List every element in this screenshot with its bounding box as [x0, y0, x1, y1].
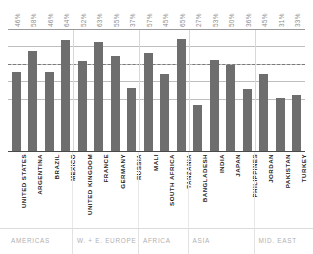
category-label: BANGLADESH: [201, 154, 208, 202]
value-label: 33%: [294, 18, 301, 27]
bar[interactable]: [111, 56, 120, 152]
category-label: GERMANY: [119, 154, 126, 189]
value-label: 46%: [14, 18, 21, 27]
group-label: ASIA: [193, 237, 210, 244]
value-label: 63%: [96, 18, 103, 27]
bar[interactable]: [276, 98, 285, 152]
bar[interactable]: [78, 61, 87, 152]
value-label: 52%: [80, 18, 87, 27]
bar[interactable]: [193, 105, 202, 152]
bar[interactable]: [226, 65, 235, 152]
bar[interactable]: [259, 74, 268, 152]
value-label: 45%: [162, 18, 169, 27]
group-divider: [188, 229, 189, 254]
category-label: JORDAN: [267, 154, 274, 183]
category-label: BRAZIL: [53, 154, 60, 179]
group-tick: [188, 152, 189, 228]
group-label: AMERICAS: [11, 237, 50, 244]
value-label: 46%: [47, 18, 54, 27]
bar[interactable]: [177, 39, 186, 152]
category-label: SOUTH AFRICA: [168, 154, 175, 206]
value-label: 36%: [245, 18, 252, 27]
axis-baseline: [8, 151, 305, 153]
group-divider: [72, 229, 73, 254]
group-tick: [72, 152, 73, 228]
category-label: UNITED STATES: [20, 154, 27, 208]
group-divider: [138, 229, 139, 254]
group-label: W. + E. EUROPE: [77, 237, 136, 244]
group-label: MID. EAST: [259, 237, 297, 244]
category-label: FRANCE: [102, 154, 109, 182]
category-label: PAKISTAN: [284, 154, 291, 188]
group-label: AFRICA: [143, 237, 171, 244]
group-tick: [138, 152, 139, 228]
bar[interactable]: [210, 60, 219, 152]
category-label: JAPAN: [234, 154, 241, 177]
category-label: TURKEY: [300, 154, 307, 182]
category-label: ARGENTINA: [36, 154, 43, 195]
bar[interactable]: [292, 95, 301, 153]
value-label: 58%: [30, 18, 37, 27]
bar[interactable]: [12, 72, 21, 152]
bar[interactable]: [127, 88, 136, 152]
value-label: 45%: [261, 18, 268, 27]
value-label: 65%: [179, 18, 186, 27]
value-label: 31%: [278, 18, 285, 27]
bar[interactable]: [94, 42, 103, 152]
bar[interactable]: [61, 40, 70, 152]
group-divider: [254, 229, 255, 254]
plot-area: [8, 30, 305, 152]
value-label: 64%: [63, 18, 70, 27]
value-label: 37%: [129, 18, 136, 27]
category-label: MALI: [152, 154, 159, 171]
group-labels-layer: AMERICASW. + E. EUROPEAFRICAASIAMID. EAS…: [0, 228, 313, 254]
value-label: 50%: [228, 18, 235, 27]
bar[interactable]: [45, 72, 54, 152]
category-label: UNITED KINGDOM: [86, 154, 93, 215]
value-label: 55%: [113, 18, 120, 27]
bars-container: [8, 30, 305, 152]
group-tick: [254, 152, 255, 228]
value-label: 53%: [212, 18, 219, 27]
bar[interactable]: [28, 51, 37, 152]
value-labels-layer: 46%58%46%64%52%63%55%37%57%45%65%27%53%5…: [8, 0, 305, 30]
bar[interactable]: [243, 89, 252, 152]
bar[interactable]: [144, 53, 153, 152]
value-label: 27%: [195, 18, 202, 27]
category-label: INDIA: [218, 154, 225, 173]
value-label: 57%: [146, 18, 153, 27]
category-labels-layer: UNITED STATESARGENTINABRAZILMEXICOUNITED…: [8, 154, 305, 228]
bar[interactable]: [160, 74, 169, 152]
